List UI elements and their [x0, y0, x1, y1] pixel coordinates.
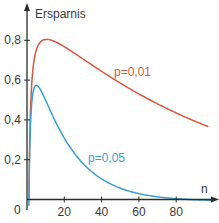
y-axis-title: Ersparnis	[35, 7, 86, 21]
x-tick-label: 60	[132, 205, 146, 219]
y-axis-arrow-icon	[24, 3, 30, 11]
curve-p001	[29, 39, 209, 197]
origin-label: 0	[14, 203, 21, 217]
curve-p005	[29, 85, 213, 205]
x-axis-arrow-icon	[211, 197, 219, 203]
y-tick-label: 0,2	[4, 153, 21, 167]
x-tick-label: 40	[95, 205, 109, 219]
x-tick-label: 80	[170, 205, 184, 219]
y-tick-label: 0,6	[4, 73, 21, 87]
x-axis-title: n	[201, 182, 208, 196]
y-tick-label: 0,8	[4, 33, 21, 47]
series-label-p001: p=0,01	[114, 65, 151, 79]
savings-chart: 204060800,20,40,60,8 Ersparnis n 0 p=0,0…	[0, 0, 219, 223]
x-tick-label: 20	[58, 205, 72, 219]
series-label-p005: p=0,05	[88, 151, 125, 165]
y-tick-label: 0,4	[4, 113, 21, 127]
